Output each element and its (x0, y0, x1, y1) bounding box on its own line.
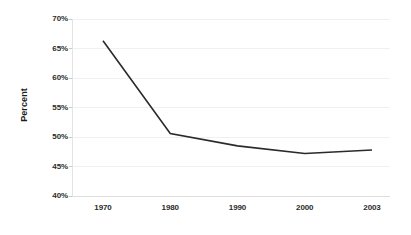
plot-area (0, 0, 411, 235)
gridlines (72, 19, 390, 196)
x-axis-tick-label: 2003 (342, 203, 402, 213)
line-chart: Percent 70%65%60%55%50%45%40% 1970198019… (0, 0, 411, 235)
x-axis-tick-label: 2000 (275, 203, 335, 213)
x-axis-tick-label: 1970 (73, 203, 133, 213)
x-axis-tick-label: 1980 (140, 203, 200, 213)
x-axis-tick-labels: 19701980199020002003 (0, 203, 411, 219)
x-axis-tick-label: 1990 (208, 203, 268, 213)
